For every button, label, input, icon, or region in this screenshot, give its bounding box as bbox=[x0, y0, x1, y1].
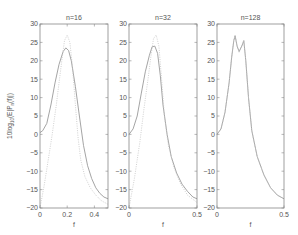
x-tick-label: 0.5 bbox=[192, 211, 202, 218]
y-tick-label: 0 bbox=[211, 131, 215, 138]
y-tick-label: 25 bbox=[207, 39, 215, 46]
y-tick-label: 5 bbox=[34, 112, 38, 119]
y-tick-label: 25 bbox=[30, 39, 38, 46]
x-axis-label: f bbox=[73, 221, 75, 228]
axes-frame bbox=[40, 24, 108, 208]
panel-title: n=16 bbox=[66, 14, 82, 21]
x-tick-label: 0.4 bbox=[90, 211, 100, 218]
x-tick-label: 0 bbox=[127, 211, 131, 218]
panel-n16: 302520151050−5−10−15−2000.20.4n=16f bbox=[26, 14, 108, 228]
dotted-series bbox=[40, 35, 108, 208]
y-tick-label: 15 bbox=[119, 76, 127, 83]
panel-n32: 302520151050−5−10−15−2000.5n=32f bbox=[115, 14, 202, 228]
y-tick-label: −10 bbox=[26, 168, 38, 175]
x-tick-label: 0 bbox=[38, 211, 42, 218]
y-tick-label: 5 bbox=[211, 112, 215, 119]
y-tick-label: −10 bbox=[203, 168, 215, 175]
y-tick-label: 10 bbox=[30, 94, 38, 101]
chart-figure: 10log10(E|Pn(f)|) 302520151050−5−10−15−2… bbox=[0, 0, 298, 235]
y-tick-label: 5 bbox=[123, 112, 127, 119]
y-tick-label: −15 bbox=[26, 186, 38, 193]
x-tick-label: 0 bbox=[215, 211, 219, 218]
y-tick-label: 10 bbox=[119, 94, 127, 101]
x-tick-label: 0.5 bbox=[279, 211, 289, 218]
x-tick-label: 0.2 bbox=[62, 211, 72, 218]
y-tick-label: 30 bbox=[119, 20, 127, 27]
y-tick-label: −15 bbox=[203, 186, 215, 193]
panel-title: n=32 bbox=[155, 14, 171, 21]
axes-frame bbox=[129, 24, 197, 208]
y-tick-label: −20 bbox=[203, 204, 215, 211]
y-tick-label: 30 bbox=[207, 20, 215, 27]
solid-series bbox=[129, 46, 197, 199]
y-tick-label: 10 bbox=[207, 94, 215, 101]
y-tick-label: −5 bbox=[207, 149, 215, 156]
y-tick-label: −15 bbox=[115, 186, 127, 193]
y-tick-label: 20 bbox=[119, 57, 127, 64]
y-tick-label: −5 bbox=[30, 149, 38, 156]
y-tick-label: 20 bbox=[30, 57, 38, 64]
x-axis-label: f bbox=[250, 221, 252, 228]
y-tick-label: 25 bbox=[119, 39, 127, 46]
dotted-series bbox=[129, 35, 197, 208]
y-tick-label: −20 bbox=[115, 204, 127, 211]
y-tick-label: 30 bbox=[30, 20, 38, 27]
y-tick-label: 15 bbox=[207, 76, 215, 83]
y-tick-label: −5 bbox=[119, 149, 127, 156]
y-tick-label: −10 bbox=[115, 168, 127, 175]
y-tick-label: 15 bbox=[30, 76, 38, 83]
panel-title: n=128 bbox=[241, 14, 261, 21]
dotted-series bbox=[217, 35, 284, 199]
solid-series bbox=[40, 48, 108, 199]
y-tick-label: 20 bbox=[207, 57, 215, 64]
y-axis-label: 10log10(E|Pn(f)|) bbox=[6, 93, 15, 139]
y-tick-label: 0 bbox=[34, 131, 38, 138]
panel-n128: 302520151050−5−10−15−2000.5n=128f bbox=[203, 14, 289, 228]
y-tick-label: −20 bbox=[26, 204, 38, 211]
x-axis-label: f bbox=[162, 221, 164, 228]
y-tick-label: 0 bbox=[123, 131, 127, 138]
